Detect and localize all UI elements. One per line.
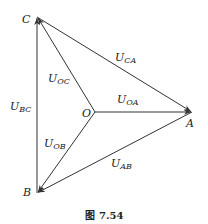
vector-u-ca — [37, 17, 191, 112]
vector-u-ob — [38, 112, 95, 192]
phasor-diagram: C B A O UOC UBC UCA UOA UOB UAB 图7.54 — [0, 0, 208, 224]
vector-u-ab — [38, 112, 192, 193]
vector-u-oc — [38, 18, 95, 112]
figure-caption: 图7.54 — [85, 210, 123, 221]
label-u-oa: UOA — [117, 93, 139, 107]
label-u-oc: UOC — [48, 72, 70, 86]
point-label-c: C — [22, 13, 31, 26]
label-u-ca: UCA — [115, 51, 136, 65]
point-label-o: O — [82, 107, 91, 120]
label-u-ab: UAB — [111, 157, 132, 171]
label-u-bc: UBC — [10, 100, 31, 114]
point-label-b: B — [22, 186, 31, 199]
label-u-ob: UOB — [44, 137, 66, 151]
point-label-a: A — [185, 117, 194, 130]
